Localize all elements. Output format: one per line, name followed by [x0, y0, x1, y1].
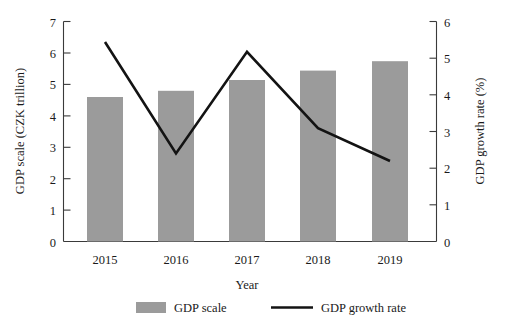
bar-2017	[229, 80, 265, 242]
y-axis-right: 6 5 4 3 2 1 0 GDP growth rate (%)	[430, 16, 488, 250]
y-axis-left-tick-label: 0	[50, 236, 56, 250]
bar-2018	[300, 71, 336, 242]
y-axis-right-tick-label: 5	[444, 52, 450, 66]
legend-label-gdp-growth-rate: GDP growth rate	[321, 301, 406, 315]
y-axis-right-tick-label: 4	[444, 89, 451, 103]
y-axis-right-tick-label: 1	[444, 199, 450, 213]
y-axis-left: 7 6 5 4 3 2 1 0 GDP scale (CZK trillion)	[13, 16, 71, 250]
bar-2016	[158, 91, 194, 242]
y-axis-left-tick-label: 6	[50, 47, 56, 61]
y-axis-left-tick-label: 5	[50, 78, 56, 92]
gdp-dual-axis-chart: 7 6 5 4 3 2 1 0 GDP scale (CZK trillion)…	[0, 0, 507, 327]
x-axis-tick-label: 2017	[235, 253, 260, 267]
y-axis-left-tick-label: 3	[50, 141, 56, 155]
y-axis-right-tick-label: 2	[444, 162, 450, 176]
y-axis-left-tick-label: 7	[50, 16, 56, 30]
x-axis-title: Year	[235, 278, 259, 292]
chart-canvas: 7 6 5 4 3 2 1 0 GDP scale (CZK trillion)…	[0, 0, 507, 327]
y-axis-right-tick-label: 0	[444, 236, 450, 250]
x-axis-tick-label: 2019	[378, 253, 403, 267]
y-axis-left-title: GDP scale (CZK trillion)	[13, 68, 27, 194]
legend: GDP scale GDP growth rate	[136, 301, 406, 315]
y-axis-right-tick-label: 6	[444, 16, 450, 30]
y-axis-left-tick-label: 1	[50, 204, 56, 218]
bar-2015	[87, 97, 123, 242]
x-axis-tick-label: 2018	[306, 253, 331, 267]
y-axis-left-tick-label: 4	[50, 110, 57, 124]
y-axis-right-title: GDP growth rate (%)	[473, 78, 487, 185]
y-axis-left-tick-label: 2	[50, 173, 56, 187]
legend-label-gdp-scale: GDP scale	[174, 301, 227, 315]
bar-2019	[372, 61, 408, 241]
x-axis: 2015 2016 2017 2018 2019 Year	[64, 242, 437, 293]
y-axis-right-tick-label: 3	[444, 126, 450, 140]
x-axis-tick-label: 2015	[93, 253, 118, 267]
legend-swatch-gdp-scale	[136, 302, 166, 313]
x-axis-tick-label: 2016	[164, 253, 189, 267]
